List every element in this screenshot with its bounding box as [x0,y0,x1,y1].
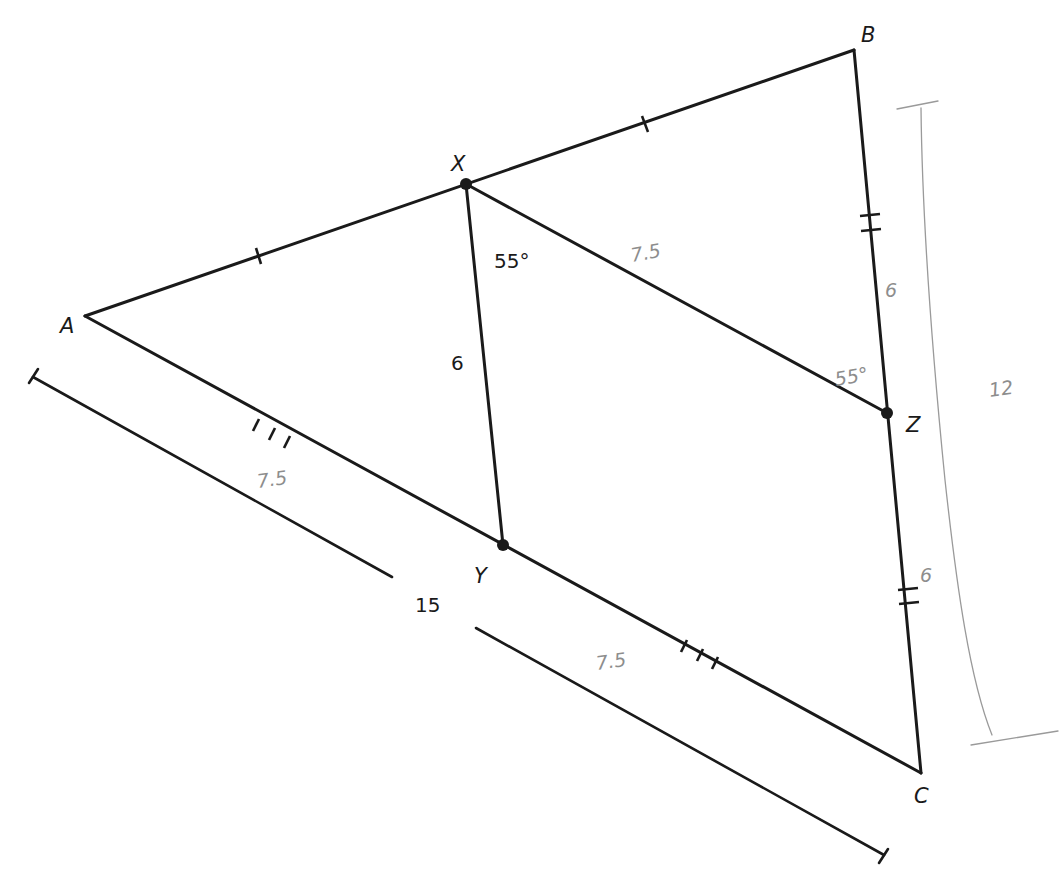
label-ac-length: 15 [415,593,440,617]
label-x: X [450,152,466,176]
hand-label-angle-z: 55° [833,362,870,390]
label-b: B [861,23,875,47]
double-tick-zc [898,588,919,604]
hand-label-zc: 6 [920,564,932,586]
hand-label-bc: 12 [987,376,1014,401]
label-z: Z [905,413,921,437]
point-x [460,178,472,190]
label-y: Y [474,564,489,588]
label-angle-x: 55° [494,249,529,273]
segment-xz [466,184,887,413]
pencil-dimension-bc [897,101,1058,745]
triangle-diagram: A B C X Y Z 55° 6 15 7.5 55° 6 6 12 7.5 … [0,0,1059,887]
hand-label-xz: 7.5 [629,239,663,266]
label-xy-length: 6 [451,351,464,375]
label-c: C [914,784,929,808]
hand-label-ay: 7.5 [255,466,288,492]
dimension-line-ac [29,369,888,863]
point-y [497,539,509,551]
hand-label-yc: 7.5 [594,648,627,674]
hand-label-bz: 6 [885,279,897,301]
segment-xy [466,184,503,545]
point-z [881,407,893,419]
label-a: A [58,314,74,338]
